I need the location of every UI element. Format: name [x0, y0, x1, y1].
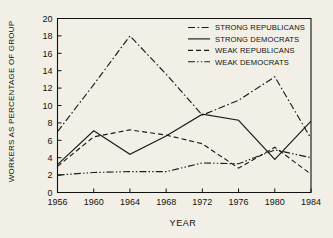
y-tick-label: 2 — [47, 170, 52, 180]
legend-label: STRONG DEMOCRATS — [215, 35, 299, 44]
y-tick-label: 18 — [42, 31, 52, 41]
y-tick-label: 4 — [47, 153, 52, 163]
x-tick-label: 1984 — [301, 197, 321, 207]
series-line-weak-republicans — [58, 130, 312, 174]
x-tick-label: 1976 — [229, 197, 249, 207]
x-tick-label: 1968 — [156, 197, 176, 207]
x-tick-label: 1980 — [265, 197, 285, 207]
line-chart: 02468101214161820 1956196019641968197219… — [0, 0, 333, 238]
y-axis-ticks: 02468101214161820 — [42, 14, 61, 198]
y-tick-label: 8 — [47, 118, 52, 128]
x-tick-label: 1964 — [120, 197, 140, 207]
legend-label: STRONG REPUBLICANS — [215, 23, 305, 32]
legend-label: WEAK REPUBLICANS — [215, 46, 295, 55]
series-line-weak-democrats — [58, 150, 312, 175]
y-tick-label: 6 — [47, 136, 52, 146]
legend-label: WEAK DEMOCRATS — [215, 58, 289, 67]
axis-frame — [58, 19, 312, 193]
x-tick-label: 1956 — [47, 197, 67, 207]
y-tick-label: 14 — [42, 66, 52, 76]
y-tick-label: 20 — [42, 14, 52, 24]
y-tick-label: 16 — [42, 49, 52, 59]
x-tick-label: 1972 — [192, 197, 212, 207]
y-tick-label: 12 — [42, 83, 52, 93]
x-tick-label: 1960 — [84, 197, 104, 207]
x-axis-ticks: 19561960196419681972197619801984 — [47, 189, 321, 207]
y-tick-label: 10 — [42, 101, 52, 111]
chart-legend: STRONG REPUBLICANSSTRONG DEMOCRATSWEAK R… — [188, 23, 305, 66]
chart-figure: WORKERS AS PERCENTAGE OF GROUP YEAR 0246… — [0, 0, 333, 238]
